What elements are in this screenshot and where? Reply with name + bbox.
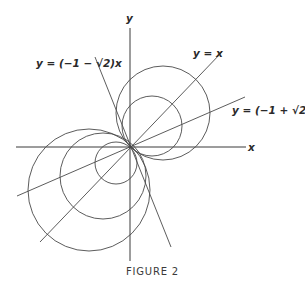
figure-caption: FIGURE 2 <box>0 266 305 277</box>
y-axis-label: y <box>126 12 134 24</box>
x-axis-label: x <box>247 141 256 153</box>
line-y-eq-x-label: y = x <box>193 47 224 59</box>
figure-diagram: y x y = x y = (−1 + √2)x y = (−1 − √2)x <box>0 0 305 286</box>
line-neg-label: y = (−1 − √2)x <box>36 57 123 69</box>
line-pos-label: y = (−1 + √2)x <box>232 104 305 116</box>
